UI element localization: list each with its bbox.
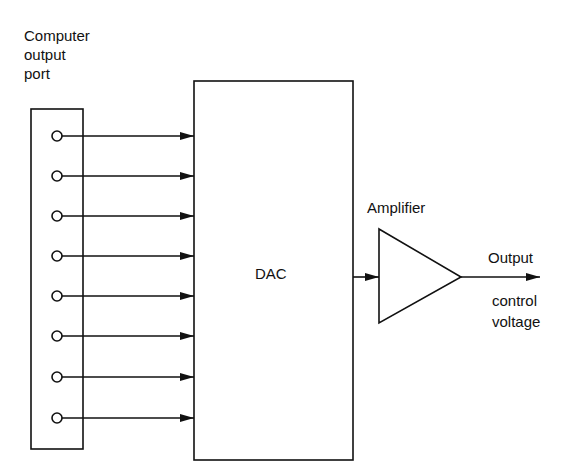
output-label-line: control <box>492 290 540 311</box>
port-label: Computer output port <box>24 26 90 83</box>
port-label-line: Computer <box>24 26 90 45</box>
output-label: Output <box>488 248 533 267</box>
amplifier-label: Amplifier <box>367 198 425 217</box>
output-desc-label: control voltage <box>492 290 540 332</box>
port-label-line: port <box>24 64 90 83</box>
computer-output-port-box <box>31 109 83 449</box>
dac-label: DAC <box>255 264 287 283</box>
output-label-line: Output <box>488 248 533 267</box>
amplifier-triangle <box>379 229 461 323</box>
output-label-line: voltage <box>492 311 540 332</box>
port-label-line: output <box>24 45 90 64</box>
port-bit-lines <box>52 131 194 423</box>
